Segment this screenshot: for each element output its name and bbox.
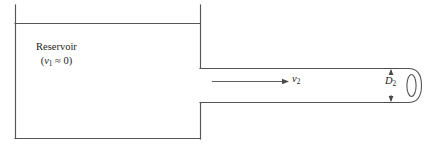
pipe-diameter-symbol: D: [385, 75, 393, 86]
pipe-diameter-label: D2: [385, 75, 396, 88]
pipe-velocity-label: v2: [292, 73, 300, 86]
close-paren: ): [69, 55, 73, 66]
pipe-velocity-symbol: v: [292, 73, 297, 84]
pipe-velocity-subscript: 2: [297, 78, 301, 86]
reservoir-velocity-subscript: 1: [49, 60, 53, 68]
reservoir-velocity-relation: ≈ 0: [55, 55, 69, 66]
reservoir-label: Reservoir (v1 ≈ 0): [36, 41, 77, 68]
flow-arrow-head: [282, 79, 289, 84]
diameter-arrow-head-down: [389, 96, 394, 102]
pipe-outlet-ellipse: [407, 75, 416, 97]
pipe-diameter-subscript: 2: [393, 80, 397, 88]
reservoir-name-text: Reservoir: [36, 41, 77, 52]
pipe-outlet-outer-curve: [408, 68, 422, 102]
reservoir-velocity-expression: (v1 ≈ 0): [36, 55, 77, 68]
figure-canvas: Reservoir (v1 ≈ 0) v2 D2: [0, 0, 427, 153]
reservoir-pipe-diagram: [0, 0, 427, 153]
